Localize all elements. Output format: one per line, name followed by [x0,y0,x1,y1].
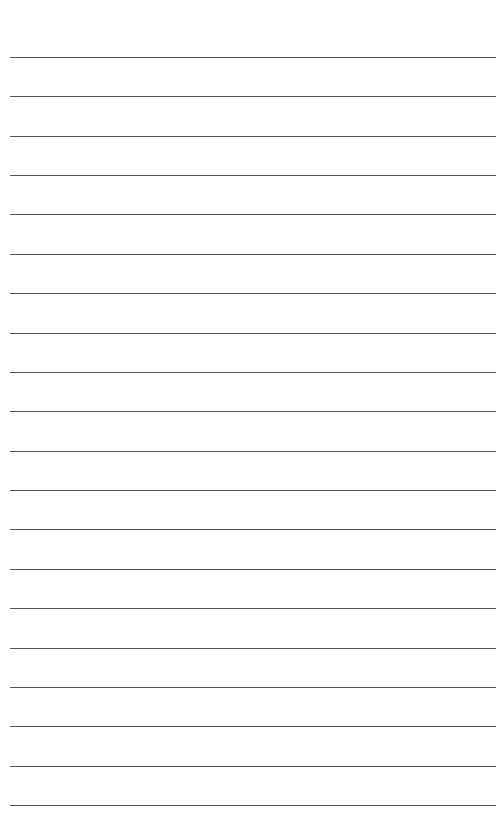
ruled-line [10,254,496,255]
ruled-line [10,411,496,412]
ruled-line [10,726,496,727]
ruled-line [10,569,496,570]
ruled-line [10,648,496,649]
ruled-line [10,608,496,609]
ruled-line [10,529,496,530]
ruled-line [10,57,496,58]
ruled-line [10,136,496,137]
ruled-line [10,766,496,767]
ruled-line [10,451,496,452]
ruled-line [10,687,496,688]
ruled-line [10,293,496,294]
ruled-line [10,490,496,491]
ruled-line [10,372,496,373]
ruled-line [10,214,496,215]
ruled-line [10,96,496,97]
ruled-line [10,175,496,176]
ruled-line [10,805,496,806]
lined-paper-page [0,0,504,819]
ruled-line [10,333,496,334]
